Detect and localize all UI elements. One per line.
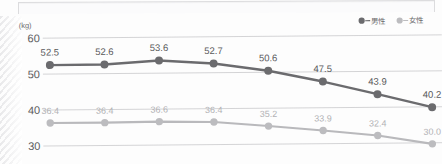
data-point-female-1[interactable] [47,119,54,126]
data-label-male-4: 52.7 [204,45,223,56]
data-point-female-5[interactable] [265,122,272,129]
data-label-female-7: 32.4 [369,118,387,128]
legend-marker-female-icon [397,17,403,23]
data-point-male-3[interactable] [155,57,163,65]
data-label-female-3: 36.6 [151,105,169,115]
data-point-male-2[interactable] [100,60,108,68]
chart-svg: 60504030 (kg) 52.552.653.652.750.647.543… [0,0,442,164]
chart-legend: 男性 女性 [359,15,425,25]
data-label-female-2: 36.4 [96,106,114,116]
data-label-female-1: 36.4 [41,106,59,116]
data-point-female-3[interactable] [156,118,163,125]
chart-screenshot: 60504030 (kg) 52.552.653.652.750.647.543… [0,0,442,164]
data-point-female-7[interactable] [374,132,381,139]
data-label-female-6: 33.9 [314,113,332,123]
data-label-female-4: 36.4 [205,105,223,115]
legend-label-female: 女性 [409,15,424,25]
data-point-female-6[interactable] [319,127,326,134]
y-axis-tick-40: 40 [28,104,40,116]
legend-label-male: 男性 [371,16,386,26]
data-point-male-7[interactable] [373,90,381,98]
y-axis-tick-60: 60 [27,32,39,44]
data-label-female-5: 35.2 [260,109,278,119]
data-point-female-2[interactable] [101,119,108,126]
y-axis-tick-50: 50 [28,68,40,80]
data-label-male-1: 52.5 [41,47,60,58]
data-label-male-2: 52.6 [95,46,114,57]
y-axis-tick-labels: 60504030 [27,32,40,152]
y-axis-unit-label: (kg) [19,21,32,30]
legend-marker-male-icon [359,18,365,24]
data-point-male-6[interactable] [319,78,327,86]
data-point-female-4[interactable] [210,118,217,125]
data-point-male-5[interactable] [264,67,272,75]
data-label-male-7: 43.9 [368,76,387,87]
line-chart: 60504030 (kg) 52.552.653.652.750.647.543… [0,0,442,164]
y-axis-tick-30: 30 [28,140,40,152]
data-label-female-8: 30.0 [423,127,441,137]
data-point-male-1[interactable] [46,61,54,69]
data-label-male-5: 50.6 [259,52,278,63]
series-layer [46,55,437,150]
data-point-female-8[interactable] [429,140,436,147]
data-label-male-6: 47.5 [314,63,333,74]
data-label-male-3: 53.6 [150,42,169,53]
data-point-male-8[interactable] [428,103,436,111]
data-point-male-4[interactable] [210,59,218,67]
data-label-male-8: 40.2 [423,89,442,100]
